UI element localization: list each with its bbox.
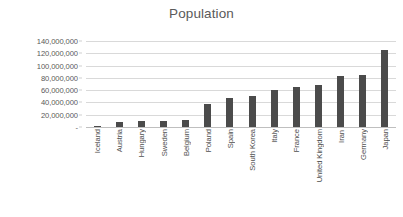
bar[interactable]	[204, 104, 211, 127]
y-axis-tick-mark	[79, 90, 82, 91]
y-axis-tick-label: 60,000,000	[41, 86, 78, 95]
bar[interactable]	[271, 90, 278, 127]
y-axis-tick-label: 120,000,000	[37, 49, 78, 58]
y-axis-tick-mark	[79, 102, 82, 103]
y-axis-tick-label: 40,000,000	[41, 98, 78, 107]
y-axis-tick-label: 140,000,000	[37, 37, 78, 46]
x-axis: IcelandAustriaHungarySwedenBelgiumPoland…	[86, 129, 396, 215]
bars-layer	[86, 41, 396, 127]
y-axis-tick-label: 100,000,000	[37, 61, 78, 70]
x-axis-tick-label: Hungary	[137, 129, 146, 157]
y-axis-tick-mark	[79, 127, 82, 128]
bar[interactable]	[315, 85, 322, 127]
bar[interactable]	[249, 96, 256, 127]
y-axis-tick-mark	[79, 77, 82, 78]
x-axis-tick-label: Austria	[115, 129, 124, 152]
x-axis-tick-label: Belgium	[181, 129, 190, 156]
x-axis-tick-label: Germany	[358, 129, 367, 160]
bar[interactable]	[337, 76, 344, 127]
y-axis-tick-mark	[79, 53, 82, 54]
bar[interactable]	[226, 98, 233, 127]
bar[interactable]	[293, 87, 300, 127]
bar[interactable]	[160, 121, 167, 127]
bar[interactable]	[138, 121, 145, 127]
x-axis-tick-label: Poland	[203, 129, 212, 152]
bar[interactable]	[94, 126, 101, 127]
y-axis-tick-mark	[79, 41, 82, 42]
gridline	[86, 127, 396, 128]
y-axis-tick-mark	[79, 65, 82, 66]
bar[interactable]	[116, 122, 123, 127]
population-bar-chart: Population 140,000,000120,000,000100,000…	[0, 0, 403, 217]
x-axis-tick-label: South Korea	[248, 129, 257, 171]
y-axis-tick-label: 80,000,000	[41, 73, 78, 82]
x-axis-tick-label: Spain	[225, 129, 234, 148]
y-axis: 140,000,000120,000,000100,000,00080,000,…	[0, 41, 82, 127]
x-axis-tick-label: United Kingdom	[314, 129, 323, 182]
x-axis-tick-label: Japan	[380, 129, 389, 149]
x-axis-tick-label: Iran	[336, 130, 345, 143]
x-axis-tick-label: Sweden	[159, 129, 168, 156]
y-axis-tick-mark	[79, 114, 82, 115]
bar[interactable]	[381, 50, 388, 127]
x-axis-tick-label: Iceland	[93, 129, 102, 153]
y-axis-tick-label: 20,000,000	[41, 110, 78, 119]
x-axis-tick-label: France	[292, 129, 301, 152]
bar[interactable]	[182, 120, 189, 127]
bar[interactable]	[359, 75, 366, 127]
y-axis-tick-label: -	[76, 123, 78, 132]
x-axis-tick-label: Italy	[270, 129, 279, 143]
chart-title: Population	[0, 6, 403, 21]
plot-area	[86, 41, 396, 127]
